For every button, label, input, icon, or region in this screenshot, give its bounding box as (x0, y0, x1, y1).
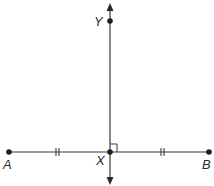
label-x: X (96, 154, 105, 167)
label-y: Y (94, 15, 103, 28)
arrow-down-icon (107, 177, 114, 185)
label-a: A (3, 158, 12, 171)
point-y (107, 18, 113, 24)
point-b (206, 149, 212, 155)
point-a (6, 149, 12, 155)
perpendicular-bisector-diagram (0, 0, 214, 186)
arrow-up-icon (107, 3, 114, 11)
label-b: B (202, 158, 211, 171)
point-x (107, 149, 113, 155)
